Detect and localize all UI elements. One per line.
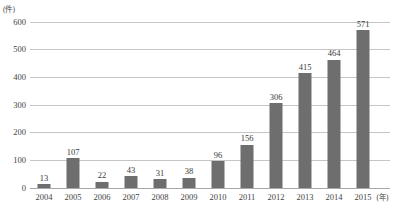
bar xyxy=(67,158,80,188)
x-axis-tick-label: 2014 xyxy=(320,192,349,202)
axis-baseline xyxy=(30,188,390,189)
bar-value-label: 43 xyxy=(127,166,136,175)
bar-value-label: 31 xyxy=(156,169,165,178)
bar-series: 131072243313896156306415464571 xyxy=(30,22,390,188)
bar-value-label: 13 xyxy=(40,174,49,183)
y-axis-tick-label: 500 xyxy=(0,45,26,54)
x-axis-tick-labels: (年) 200420052006200720082009201020112012… xyxy=(30,192,390,206)
cropped-chart-title xyxy=(62,0,362,4)
y-axis-tick-label: 400 xyxy=(0,73,26,82)
y-axis-tick-label: 600 xyxy=(0,18,26,27)
x-axis-tick-label: 2009 xyxy=(175,192,204,202)
y-axis-tick-label: 300 xyxy=(0,101,26,110)
bar xyxy=(183,178,196,189)
bar-value-label: 96 xyxy=(214,151,223,160)
x-axis-tick-label: 2006 xyxy=(88,192,117,202)
x-axis-tick-label: 2007 xyxy=(117,192,146,202)
bar-value-label: 107 xyxy=(67,148,80,157)
bar-slot: 38 xyxy=(175,22,204,188)
bar-slot: 415 xyxy=(291,22,320,188)
bar-value-label: 38 xyxy=(185,167,194,176)
x-axis-tick-label: 2005 xyxy=(59,192,88,202)
bar xyxy=(125,176,138,188)
bar-slot: 571 xyxy=(349,22,378,188)
bar xyxy=(241,145,254,188)
x-axis-tick-label: 2015 xyxy=(349,192,378,202)
y-axis-unit-label: (件) xyxy=(3,5,15,14)
y-axis-tick-label: 200 xyxy=(0,128,26,137)
bar xyxy=(38,184,51,188)
bar-value-label: 415 xyxy=(299,63,312,72)
bar-value-label: 22 xyxy=(98,171,107,180)
bar xyxy=(299,73,312,188)
x-axis-unit-label: (年) xyxy=(377,193,389,203)
bar-value-label: 464 xyxy=(328,49,341,58)
bar xyxy=(96,182,109,188)
x-axis-tick-label: 2011 xyxy=(233,192,262,202)
bar-value-label: 571 xyxy=(357,20,370,29)
x-axis-tick-label: 2008 xyxy=(146,192,175,202)
bar xyxy=(357,30,370,188)
bar-slot: 306 xyxy=(262,22,291,188)
x-axis-tick-label: 2004 xyxy=(30,192,59,202)
bar-value-label: 306 xyxy=(270,93,283,102)
bar-slot: 13 xyxy=(30,22,59,188)
x-axis-tick-label: 2010 xyxy=(204,192,233,202)
y-axis-tick-label: 100 xyxy=(0,156,26,165)
x-axis-tick-label: 2013 xyxy=(291,192,320,202)
bar-slot: 156 xyxy=(233,22,262,188)
bar-slot: 22 xyxy=(88,22,117,188)
bar-chart: (件) 131072243313896156306415464571 01002… xyxy=(0,0,400,212)
bar xyxy=(212,161,225,188)
bar-value-label: 156 xyxy=(241,134,254,143)
bar-slot: 43 xyxy=(117,22,146,188)
y-axis-tick-label: 0 xyxy=(0,184,26,193)
bar-slot: 96 xyxy=(204,22,233,188)
bar xyxy=(328,60,341,188)
bar xyxy=(270,103,283,188)
plot-area: 131072243313896156306415464571 xyxy=(30,22,390,188)
bar-slot: 31 xyxy=(146,22,175,188)
bar-slot: 107 xyxy=(59,22,88,188)
x-axis-tick-label: 2012 xyxy=(262,192,291,202)
bar xyxy=(154,179,167,188)
bar-slot: 464 xyxy=(320,22,349,188)
